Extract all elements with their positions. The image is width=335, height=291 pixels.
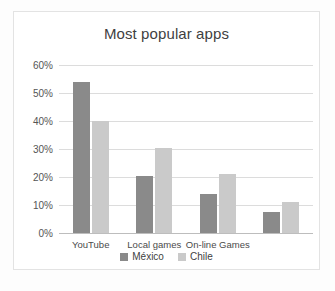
legend-item: México [120, 251, 164, 262]
y-axis-tick-label: 50% [33, 88, 53, 99]
bar [282, 202, 299, 233]
y-axis-tick-label: 0% [39, 228, 53, 239]
legend-label: México [132, 251, 164, 262]
plot-area: 0%10%20%30%40%50%60% YouTubeLocal gamesO… [59, 65, 313, 233]
bar [200, 194, 217, 233]
chart-title: Most popular apps [14, 25, 319, 42]
bar [73, 82, 90, 233]
y-axis-tick-label: 20% [33, 172, 53, 183]
y-axis-tick-label: 30% [33, 144, 53, 155]
bar-group: On-line Games [186, 65, 250, 233]
scanned-page: Most popular apps 0%10%20%30%40%50%60% Y… [0, 0, 335, 291]
legend-swatch-icon [178, 253, 186, 261]
bar-groups: YouTubeLocal gamesOn-line Games [59, 65, 313, 233]
bar [155, 148, 172, 233]
chart-legend: MéxicoChile [14, 251, 319, 262]
x-axis-tick-label: Local games [127, 239, 181, 250]
legend-swatch-icon [120, 253, 128, 261]
bar [219, 174, 236, 233]
legend-item: Chile [178, 251, 213, 262]
x-axis-tick-label: YouTube [72, 239, 109, 250]
x-axis-line [59, 233, 313, 234]
bar [92, 121, 109, 233]
bar-group: Local games [123, 65, 187, 233]
bar-group: YouTube [59, 65, 123, 233]
bar [136, 176, 153, 233]
bar [263, 212, 280, 233]
y-axis-tick-label: 40% [33, 116, 53, 127]
x-axis-tick-label: On-line Games [186, 239, 250, 250]
chart-frame: Most popular apps 0%10%20%30%40%50%60% Y… [13, 11, 320, 270]
bar-group [250, 65, 314, 233]
legend-label: Chile [190, 251, 213, 262]
y-axis-tick-label: 60% [33, 60, 53, 71]
y-axis-tick-label: 10% [33, 200, 53, 211]
